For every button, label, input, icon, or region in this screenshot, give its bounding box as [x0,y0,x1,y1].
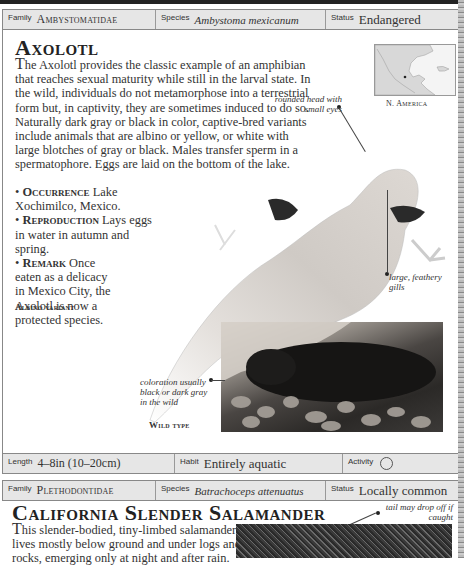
annotation-gills: large, feathery gills [389,272,459,292]
annotation-leader [387,190,388,272]
label-albino-variant: Albino variant [15,302,75,313]
species-label: Species [161,484,189,493]
status-cell: Status Endangered [326,10,459,29]
family-value: Plethodontidae [37,483,114,498]
label-wild-type: Wild type [149,420,190,431]
status-cell: Status Locally common [326,481,459,500]
habit-label: Habit [180,457,199,466]
page-edge [458,0,464,558]
field-guide-page: Family Ambystomatidae Species Ambystoma … [0,0,464,558]
north-america-map-icon [375,45,455,95]
status-label: Status [331,484,354,493]
slender-salamander-description: This slender-bodied, tiny-limbed salaman… [12,522,242,566]
family-label: Family [8,13,32,22]
family-cell: Family Ambystomatidae [3,10,156,29]
bullet-key: Remark [22,256,65,270]
bullet-key: Occurrence [22,185,89,199]
species-value: Ambystoma mexicanum [194,14,298,26]
bullet-remark: • Remark Once eaten as a delicacy in Mex… [15,256,120,327]
bullet-key: Reproduction [22,213,98,227]
habit-value: Entirely aquatic [204,456,287,472]
slender-salamander-info-bar: Family Plethodontidae Species Batrachoce… [2,480,460,501]
annotation-wild-coloration: coloration usually black or dark gray in… [140,377,215,407]
activity-label: Activity [348,457,373,466]
description-line: rocks, emerging only at night and after … [12,551,242,565]
slender-salamander-photo [236,524,452,558]
description-line: lives mostly below ground and under logs… [12,537,242,551]
description-line: his slender-bodied, tiny-limbed salamand… [22,523,236,537]
nocturnal-circle-icon [380,457,393,470]
annotation-dot [376,511,380,515]
drop-cap: T [12,520,22,537]
range-map [374,44,456,96]
species-cell: Species Batrachoceps attenuatus [156,481,326,500]
description-text: he Axolotl provides the classic example … [15,58,311,171]
wild-type-axolotl-photo [221,322,443,432]
status-value: Locally common [359,483,447,499]
family-value: Ambystomatidae [37,12,118,27]
length-cell: Length 4–8in (10–20cm) [3,454,175,473]
annotation-head: rounded head with small eyes [272,94,342,114]
length-label: Length [8,457,32,466]
species-label: Species [161,13,189,22]
page-top-rule [0,0,462,4]
status-label: Status [331,13,354,22]
bullet-reproduction: • Reproduction Lays eggs in water in aut… [15,213,160,256]
bullet-occurrence: • Occurrence Lake Xochimilco, Mexico. [15,185,160,213]
habit-cell: Habit Entirely aquatic [175,454,343,473]
axolotl-description: The Axolotl provides the classic example… [15,57,315,172]
annotation-tail: tail may drop off if caught [383,502,453,522]
species-value: Batrachoceps attenuatus [194,485,303,497]
activity-cell: Activity [343,454,459,473]
drop-cap: T [15,55,25,72]
family-label: Family [8,484,32,493]
annotation-leader [211,380,225,381]
length-value: 4–8in (10–20cm) [37,456,120,471]
axolotl-stats-bar: Length 4–8in (10–20cm) Habit Entirely aq… [2,453,460,474]
axolotl-info-bar: Family Ambystomatidae Species Ambystoma … [2,9,460,30]
family-cell: Family Plethodontidae [3,481,156,500]
status-value: Endangered [359,12,421,28]
frame-left-rule [2,10,3,460]
species-cell: Species Ambystoma mexicanum [156,10,326,29]
